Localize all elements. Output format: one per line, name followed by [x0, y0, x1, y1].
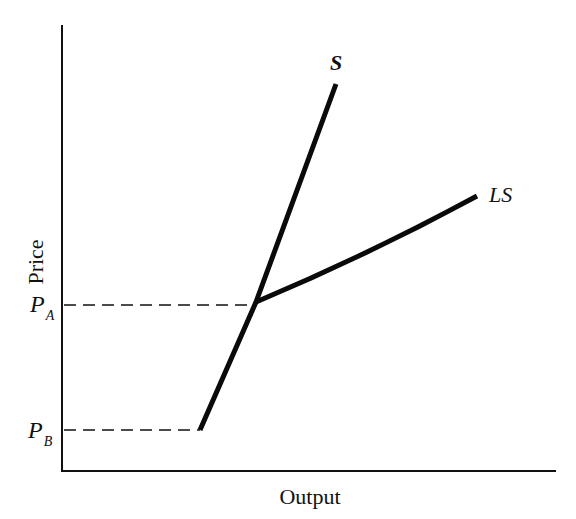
- pa-label-sub: A: [45, 308, 55, 323]
- y-axis-title: Price: [23, 239, 48, 284]
- ls-curve-label: LS: [488, 182, 512, 207]
- pa-label-main: P: [29, 291, 45, 317]
- pb-label: PB: [27, 417, 53, 449]
- pa-label: PA: [29, 291, 55, 323]
- pb-label-main: P: [27, 417, 43, 443]
- x-axis-title: Output: [279, 484, 340, 509]
- pb-label-sub: B: [44, 434, 53, 449]
- s-curve-label: S: [330, 50, 342, 75]
- supply-chart: S LS PA PB Price Output: [0, 0, 576, 519]
- s-curve: [200, 84, 336, 430]
